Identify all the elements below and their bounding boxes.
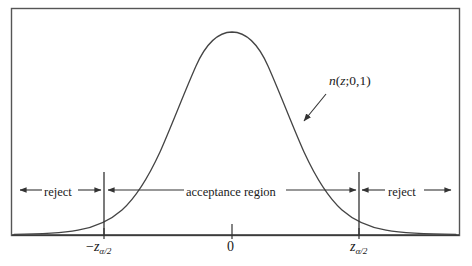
normal-density-curve <box>14 32 456 234</box>
figure-canvas <box>0 0 472 266</box>
tick-positive-subscript: α/2 <box>355 246 367 256</box>
region-label-reject-left: reject <box>44 186 72 199</box>
tick-label-positive-critical: zα/2 <box>350 240 367 256</box>
curve-label: n(z;0,1) <box>329 74 371 88</box>
tick-label-negative-critical: −zα/2 <box>86 240 111 256</box>
curve-callout-arrow <box>304 94 326 121</box>
curve-label-function: n <box>329 73 336 88</box>
region-label-acceptance: acceptance region <box>186 186 276 199</box>
figure-frame <box>12 9 460 236</box>
tick-label-origin: 0 <box>227 240 234 254</box>
tick-negative-subscript: α/2 <box>99 246 111 256</box>
region-label-reject-right: reject <box>388 186 416 199</box>
curve-label-close-paren: ) <box>366 73 371 88</box>
normal-distribution-figure: reject acceptance region reject −zα/2 0 … <box>0 0 472 266</box>
tick-negative-sign: − <box>86 239 94 254</box>
